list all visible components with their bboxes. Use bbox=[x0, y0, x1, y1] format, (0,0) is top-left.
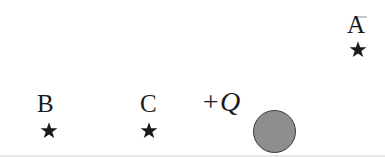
label-charge-plus-q: +Q bbox=[201, 88, 240, 116]
electrostatics-figure: A B C +Q bbox=[0, 0, 385, 157]
star-marker-c bbox=[140, 122, 158, 139]
label-point-a: A bbox=[347, 12, 365, 37]
star-marker-a bbox=[349, 41, 367, 58]
charge-sphere bbox=[253, 110, 296, 153]
scan-artifact-bottom bbox=[0, 155, 385, 157]
label-point-b: B bbox=[37, 91, 54, 116]
star-marker-b bbox=[40, 122, 58, 139]
label-point-c: C bbox=[140, 91, 157, 116]
